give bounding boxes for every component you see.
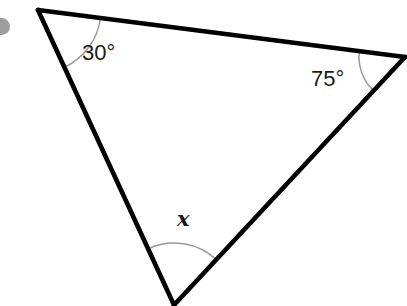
triangle-diagram-canvas: 30° 75° x bbox=[0, 0, 407, 306]
angle-label-30-degrees: 30° bbox=[82, 42, 115, 64]
angle-label-unknown-x: x bbox=[177, 208, 190, 229]
angle-label-75-degrees: 75° bbox=[311, 68, 344, 90]
angle-arc-right bbox=[359, 51, 374, 91]
angle-arc-bottom bbox=[148, 243, 216, 260]
triangle-figure bbox=[0, 0, 407, 306]
triangle-edge-right bbox=[174, 57, 405, 305]
